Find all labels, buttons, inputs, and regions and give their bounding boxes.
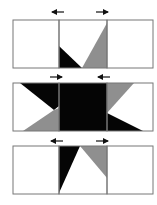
cell-left <box>13 146 59 194</box>
dark-triangle-right <box>107 113 143 131</box>
cell-left <box>13 20 59 68</box>
gray-triangle-left <box>23 108 59 131</box>
dark-triangle-left <box>20 83 59 110</box>
dark-triangle <box>59 46 82 68</box>
panel-bottom <box>13 141 153 194</box>
cell-right <box>107 20 153 68</box>
gray-triangle <box>82 23 107 68</box>
gray-triangle-right <box>107 83 134 113</box>
cell-right <box>107 146 153 194</box>
dark-block <box>59 83 107 131</box>
panel-middle <box>13 77 153 131</box>
gray-triangle <box>80 146 107 178</box>
dark-triangle <box>59 146 80 193</box>
triangle-shift-diagram <box>0 0 157 205</box>
panel-top <box>13 12 153 68</box>
